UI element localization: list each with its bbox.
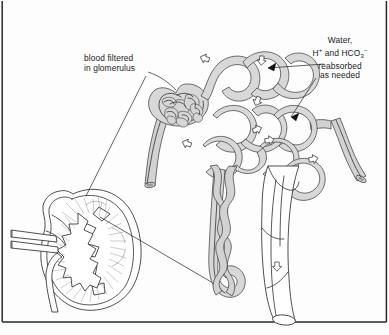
label-reabsorption-line1: Water, xyxy=(296,36,384,46)
label-reabsorption-line2: H+ and HCO3− xyxy=(296,46,384,62)
label-reabsorption-line4: as needed xyxy=(296,71,384,81)
figure-canvas: .o { fill:none; stroke:#3a3a3a; stroke-w… xyxy=(0,0,389,335)
kidney-cross-section xyxy=(11,189,141,312)
label-water-h-hco3-reabsorbed: Water, H+ and HCO3− reabsorbed as needed xyxy=(296,36,384,81)
formula-hco3-subscript: 3 xyxy=(360,53,363,59)
label-blood-filtered-in-glomerulus: blood filtered in glomerulus xyxy=(84,54,135,73)
formula-conjunction: and HCO xyxy=(322,47,360,57)
formula-hco3-charge: − xyxy=(364,47,368,53)
collecting-duct xyxy=(262,166,299,326)
label-glomerulus-line2: in glomerulus xyxy=(84,64,135,74)
